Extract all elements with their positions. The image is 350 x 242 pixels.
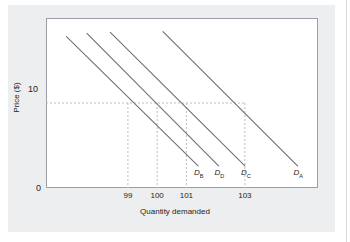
curve-label-d-d: DD bbox=[215, 168, 225, 179]
curve-label-d-b: DB bbox=[194, 168, 203, 179]
x-axis-tick-103: 103 bbox=[238, 191, 251, 200]
curve-label-subscript: D bbox=[220, 172, 224, 178]
curve-label-subscript: C bbox=[247, 172, 251, 178]
y-axis-label: Price ($) bbox=[12, 68, 21, 128]
curve-label-subscript: A bbox=[299, 172, 303, 178]
x-axis-tick-101: 101 bbox=[180, 191, 193, 200]
demand-curve-b bbox=[66, 37, 198, 166]
demand-curve-d bbox=[87, 33, 219, 166]
y-axis-tick-10: 10 bbox=[28, 84, 38, 94]
plot-canvas bbox=[46, 18, 318, 188]
demand-curve-a bbox=[163, 32, 298, 166]
x-axis-tick-100: 100 bbox=[150, 191, 163, 200]
curve-label-d-a: DA bbox=[294, 168, 303, 179]
x-axis-label: Quantity demanded bbox=[0, 207, 350, 216]
x-axis-tick-99: 99 bbox=[123, 191, 132, 200]
figure: Price ($) 10 0 99 100 101 103 Quantity d… bbox=[0, 0, 350, 242]
axis-origin-label: 0 bbox=[36, 183, 41, 193]
figure-right-edge bbox=[346, 0, 347, 242]
curve-label-subscript: B bbox=[200, 172, 204, 178]
curve-label-d-c: DC bbox=[241, 168, 251, 179]
